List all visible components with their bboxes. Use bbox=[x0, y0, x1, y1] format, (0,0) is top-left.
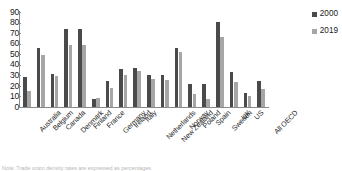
bar-2000 bbox=[175, 48, 179, 107]
bar-group bbox=[89, 12, 103, 107]
bar-group bbox=[144, 12, 158, 107]
bar-group bbox=[199, 12, 213, 107]
bar-group bbox=[158, 12, 172, 107]
bar-2000 bbox=[188, 84, 192, 107]
bar-2000 bbox=[244, 93, 248, 107]
legend-item-2019: 2019 bbox=[312, 27, 338, 35]
bar-2019 bbox=[55, 76, 59, 107]
bar-2019 bbox=[220, 37, 224, 107]
chart-caption: Note: Trade union density rates are expr… bbox=[2, 165, 332, 171]
bar-2000 bbox=[37, 48, 41, 107]
bar-2000 bbox=[216, 22, 220, 108]
bar-group bbox=[213, 12, 227, 107]
bar-2019 bbox=[206, 99, 210, 107]
bar-2019 bbox=[179, 52, 183, 107]
bar-group bbox=[254, 12, 268, 107]
bar-2000 bbox=[92, 99, 96, 107]
bar-2000 bbox=[147, 75, 151, 107]
bar-2019 bbox=[165, 80, 169, 107]
y-tick-label: 40 bbox=[1, 60, 19, 69]
bar-2000 bbox=[119, 69, 123, 107]
bar-2019 bbox=[261, 89, 265, 107]
bar-group bbox=[20, 12, 34, 107]
bar-group bbox=[61, 12, 75, 107]
y-tick-label: 60 bbox=[1, 39, 19, 48]
bar-2019 bbox=[137, 71, 141, 107]
legend-label-2019: 2019 bbox=[320, 27, 338, 35]
bar-2000 bbox=[257, 81, 261, 107]
bar-chart: 0102030405060708090 AustraliaBelgiumCana… bbox=[0, 0, 342, 171]
bar-2019 bbox=[234, 82, 238, 107]
bar-2019 bbox=[248, 96, 252, 107]
bar-2000 bbox=[23, 77, 27, 107]
bar-group bbox=[172, 12, 186, 107]
bar-2019 bbox=[41, 55, 45, 107]
y-tick-label: 70 bbox=[1, 29, 19, 38]
x-tick-label: All OECD bbox=[273, 109, 300, 136]
bar-2000 bbox=[64, 29, 68, 107]
bar-2000 bbox=[78, 29, 82, 107]
bar-group bbox=[130, 12, 144, 107]
bar-2000 bbox=[106, 81, 110, 107]
bar-group bbox=[48, 12, 62, 107]
bar-group bbox=[185, 12, 199, 107]
bar-groups bbox=[20, 12, 268, 107]
y-axis-ticks: 0102030405060708090 bbox=[0, 0, 19, 119]
bar-group bbox=[103, 12, 117, 107]
legend-swatch-2019 bbox=[312, 29, 317, 34]
y-tick-label: 20 bbox=[1, 82, 19, 91]
bar-2000 bbox=[51, 74, 55, 107]
bar-2019 bbox=[151, 79, 155, 108]
chart-legend: 2000 2019 bbox=[312, 10, 338, 35]
legend-label-2000: 2000 bbox=[320, 10, 338, 18]
bar-group bbox=[227, 12, 241, 107]
bar-2019 bbox=[193, 94, 197, 107]
y-tick-label: 50 bbox=[1, 50, 19, 59]
bar-group bbox=[34, 12, 48, 107]
bar-2019 bbox=[69, 45, 73, 107]
x-tick-label: US bbox=[253, 109, 266, 122]
bar-group bbox=[241, 12, 255, 107]
bar-group bbox=[75, 12, 89, 107]
bar-2019 bbox=[124, 75, 128, 107]
y-tick-label: 30 bbox=[1, 71, 19, 80]
bar-2000 bbox=[133, 68, 137, 107]
bar-2019 bbox=[110, 88, 114, 107]
bar-group bbox=[116, 12, 130, 107]
y-tick-label: 80 bbox=[1, 18, 19, 27]
x-axis-labels: AustraliaBelgiumCanadaDenmarkFinlandFran… bbox=[20, 108, 268, 166]
bar-2019 bbox=[96, 98, 100, 108]
y-tick-label: 90 bbox=[1, 8, 19, 17]
bar-2000 bbox=[161, 75, 165, 107]
bar-2019 bbox=[27, 91, 31, 107]
y-tick-label: 0 bbox=[1, 103, 19, 112]
legend-item-2000: 2000 bbox=[312, 10, 338, 18]
bar-2019 bbox=[82, 45, 86, 107]
y-tick-label: 10 bbox=[1, 92, 19, 101]
bar-2000 bbox=[202, 84, 206, 107]
bar-2000 bbox=[230, 72, 234, 107]
legend-swatch-2000 bbox=[312, 12, 317, 17]
